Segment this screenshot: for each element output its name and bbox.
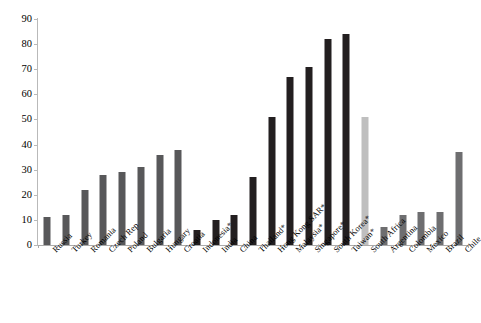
x-axis-category-label: Chile [463,248,469,254]
x-axis-category-label: Thailand* [257,248,263,254]
y-axis-tick-label: 30 [22,164,33,175]
x-axis-tick [113,245,114,248]
x-axis-category-label: Mexico [425,248,431,254]
x-axis-tick [131,245,132,248]
x-axis-category-label: Croatia [182,248,188,254]
bar-slot [449,19,468,245]
x-axis-tick [356,245,357,248]
x-axis-tick [94,245,95,248]
bar-slot [38,19,57,245]
bar[interactable] [44,217,51,245]
bar-chart: 0102030405060708090 RussiaTurkeyRomaniaC… [0,0,481,323]
bar-slot [169,19,188,245]
x-axis-tick [57,245,58,248]
bar-series [38,19,468,245]
x-axis-category-label: Romania [89,248,95,254]
bar[interactable] [268,117,275,245]
x-axis-tick [169,245,170,248]
bar-slot [188,19,207,245]
bar-slot [75,19,94,245]
y-axis-tick-label: 90 [22,14,33,25]
x-axis-tick [318,245,319,248]
x-axis-tick [206,245,207,248]
bar-slot [412,19,431,245]
x-axis-category-label: South Korea* [332,248,338,254]
bar-slot [94,19,113,245]
x-axis-category-labels: RussiaTurkeyRomaniaCzech RepPolandBulgar… [38,248,468,318]
x-axis-category-label: India [220,248,226,254]
x-axis-tick [262,245,263,248]
x-axis-category-label: Bulgaria [145,248,151,254]
x-axis-category-label: Indonesia* [201,248,207,254]
x-axis-category-label: Singapore* [313,248,319,254]
bar-slot [356,19,375,245]
x-axis-tick [449,245,450,248]
bar[interactable] [324,39,331,245]
bar-slot [393,19,412,245]
x-axis-tick [393,245,394,248]
x-axis-category-label: Colombia [407,248,413,254]
bar-slot [225,19,244,245]
x-axis-tick [244,245,245,248]
bar-slot [375,19,394,245]
bar[interactable] [343,34,350,245]
x-axis-tick [150,245,151,248]
x-axis-category-label: China [238,248,244,254]
x-axis-tick [468,245,469,248]
x-axis-tick [225,245,226,248]
x-axis-category-label: South Africa [369,248,375,254]
x-axis-tick [75,245,76,248]
y-axis-tick-label: 50 [22,114,33,125]
bar-slot [131,19,150,245]
bar-slot [281,19,300,245]
x-axis-category-label: Hong Kong SAR* [276,248,282,254]
bar-slot [113,19,132,245]
bar-slot [431,19,450,245]
y-axis-tick-label: 10 [22,215,33,226]
bar-slot [206,19,225,245]
x-axis-tick [300,245,301,248]
bar-slot [57,19,76,245]
x-axis-category-label: Russia [51,248,57,254]
bar-slot [244,19,263,245]
bar-slot [262,19,281,245]
x-axis-tick [431,245,432,248]
x-axis-category-label: Brazil [444,248,450,254]
x-axis-tick [337,245,338,248]
y-axis-tick-label: 80 [22,39,33,50]
y-axis-tick-label: 40 [22,139,33,150]
x-axis-tick [188,245,189,248]
x-axis-tick [412,245,413,248]
x-axis-tick [38,245,39,248]
bar-slot [150,19,169,245]
x-axis-tick [281,245,282,248]
x-axis-category-label: Poland [126,248,132,254]
x-axis-category-label: Turkey [70,248,76,254]
y-axis-tick-label: 0 [27,240,32,251]
bar-slot [337,19,356,245]
x-axis-category-label: Argentina [388,248,394,254]
y-axis-tick-label: 70 [22,64,33,75]
x-axis-category-label: Taiwan* [350,248,356,254]
x-axis-category-label: Czech Rep [107,248,113,254]
plot-area: 0102030405060708090 [38,19,468,245]
y-axis-tick-label: 60 [22,89,33,100]
y-axis-tick-label: 20 [22,190,33,201]
x-axis-tick [375,245,376,248]
x-axis-category-label: Hungary [164,248,170,254]
x-axis-category-label: Malaysia* [294,248,300,254]
bar[interactable] [287,77,294,245]
